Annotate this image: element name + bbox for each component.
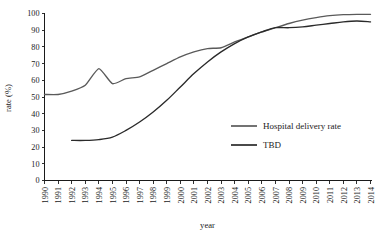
x-axis-ticks: 1990199119921993199419951996199719981999… <box>41 181 376 204</box>
x-axis-title: year <box>200 220 215 230</box>
x-tick-label: 2008 <box>285 187 294 203</box>
x-tick-label: 1991 <box>54 187 63 203</box>
x-tick-label: 2000 <box>177 187 186 203</box>
y-tick-label: 100 <box>27 9 39 18</box>
x-tick-label: 1996 <box>122 187 131 203</box>
chart-legend: Hospital delivery rateTBD <box>231 121 341 150</box>
y-tick-label: 30 <box>31 126 39 135</box>
x-tick-label: 2004 <box>231 187 240 203</box>
line-chart: 0102030405060708090100 19901991199219931… <box>0 0 383 233</box>
x-tick-label: 2003 <box>217 187 226 203</box>
y-tick-label: 40 <box>31 110 39 119</box>
x-tick-label: 1990 <box>41 187 50 203</box>
x-tick-label: 2002 <box>204 187 213 203</box>
x-tick-label: 1998 <box>149 187 158 203</box>
x-tick-label: 2001 <box>190 187 199 203</box>
x-tick-label: 2014 <box>367 187 376 203</box>
y-tick-label: 20 <box>31 143 39 152</box>
x-tick-label: 2009 <box>299 187 308 203</box>
x-tick-label: 1994 <box>95 187 104 203</box>
y-tick-label: 10 <box>31 160 39 169</box>
chart-container: 0102030405060708090100 19901991199219931… <box>0 0 383 233</box>
x-tick-label: 2010 <box>312 187 321 203</box>
legend-label: Hospital delivery rate <box>263 121 341 131</box>
y-axis-title: rate (%) <box>3 84 13 112</box>
y-tick-label: 0 <box>35 176 39 185</box>
y-tick-label: 90 <box>31 26 39 35</box>
x-tick-label: 2005 <box>244 187 253 203</box>
y-axis-ticks: 0102030405060708090100 <box>27 9 44 185</box>
x-tick-label: 1993 <box>81 187 90 203</box>
x-tick-label: 1995 <box>109 187 118 203</box>
x-tick-label: 1997 <box>136 187 145 203</box>
x-tick-label: 1999 <box>163 187 172 203</box>
y-tick-label: 70 <box>31 60 39 69</box>
series-line-hospital-delivery-rate <box>45 14 371 94</box>
x-tick-label: 2011 <box>326 187 335 203</box>
x-tick-label: 2007 <box>272 187 281 203</box>
x-tick-label: 2006 <box>258 187 267 203</box>
x-tick-label: 1992 <box>68 187 77 203</box>
y-tick-label: 80 <box>31 43 39 52</box>
y-tick-label: 50 <box>31 93 39 102</box>
legend-label: TBD <box>263 140 282 150</box>
y-tick-label: 60 <box>31 76 39 85</box>
x-tick-label: 2012 <box>340 187 349 203</box>
x-tick-label: 2013 <box>353 187 362 203</box>
